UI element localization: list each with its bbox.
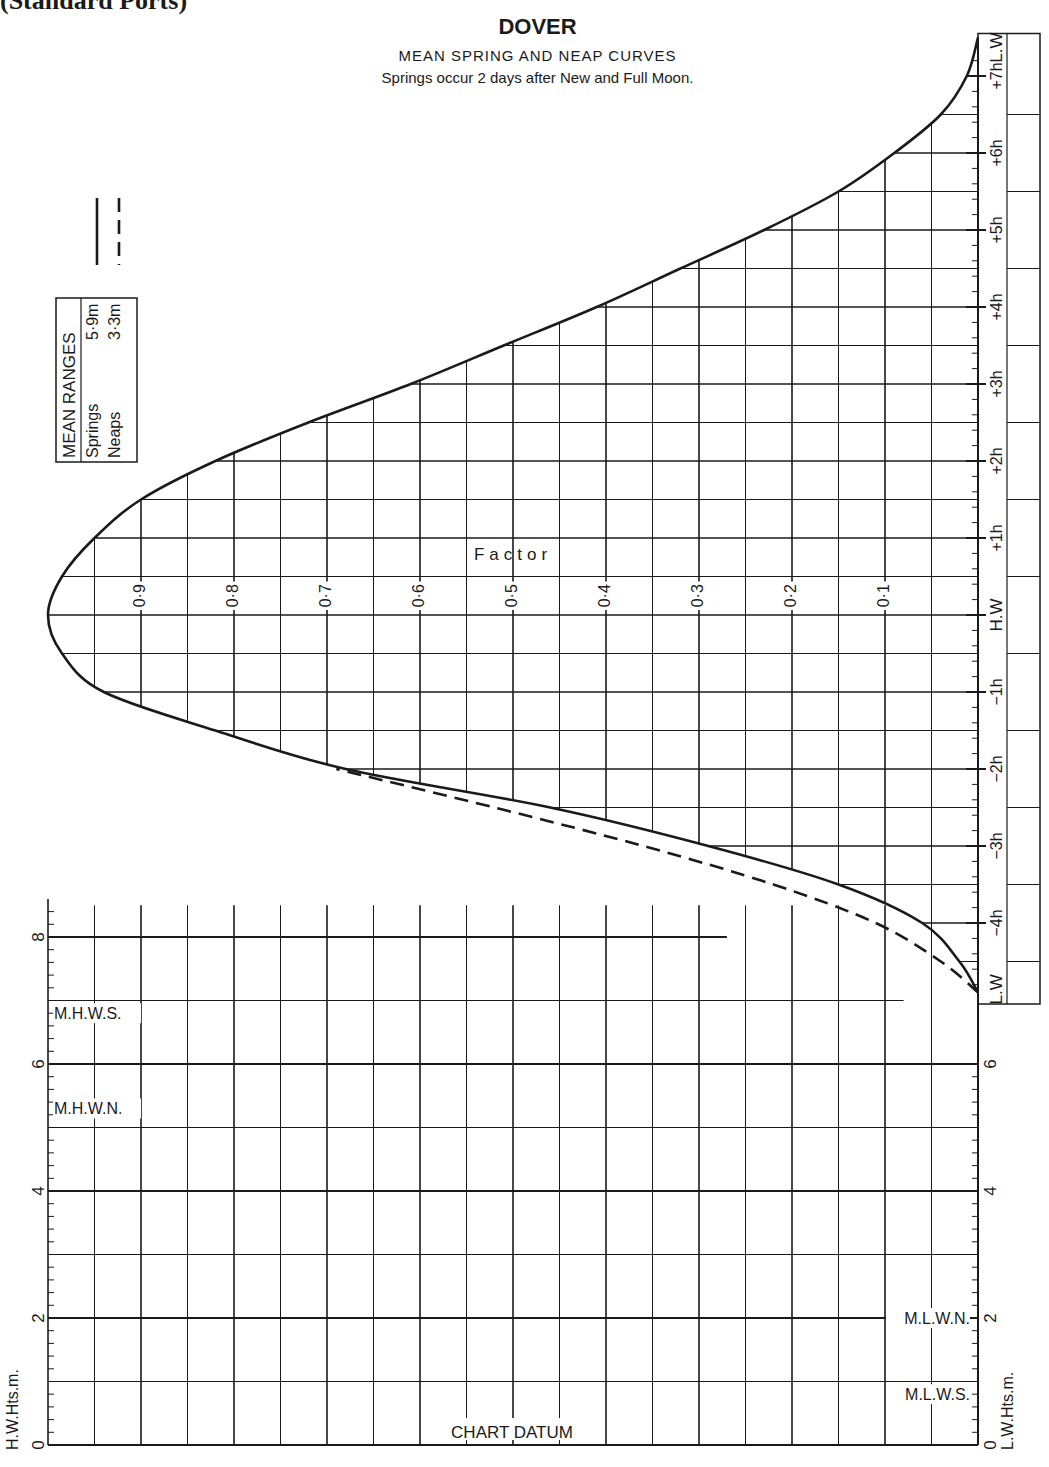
mean-ranges-neaps-label: Neaps <box>106 412 123 458</box>
right-height-tick-label: 2 <box>981 1313 1000 1322</box>
mean-ranges-springs-label: Springs <box>84 404 101 458</box>
left-axis-title: H.W.Hts.m. <box>4 1369 21 1450</box>
factor-tick-label: 0·7 <box>317 584 334 607</box>
factor-tick-label: 0·3 <box>689 584 706 607</box>
time-tick-label: +5h <box>988 216 1005 243</box>
time-tick-label: H.W <box>987 598 1006 631</box>
time-tick-label: −4h <box>988 909 1005 936</box>
factor-tick-label: 0·5 <box>503 584 520 607</box>
neaps-curve <box>336 769 978 992</box>
time-tick-label: +3h <box>988 370 1005 397</box>
right-axis-title: L.W.Hts.m. <box>999 1372 1016 1450</box>
right-height-tick-label: 6 <box>981 1059 1000 1068</box>
time-tick-label: L.W <box>987 32 1006 62</box>
mean-ranges-springs-value: 5·9m <box>84 304 101 340</box>
factor-grid <box>48 38 978 1001</box>
left-height-tick-label: 0 <box>29 1440 48 1449</box>
factor-tick-label: 0·9 <box>131 584 148 607</box>
left-height-tick-label: 8 <box>29 932 48 941</box>
right-height-marker: M.L.W.N. <box>904 1310 970 1327</box>
left-height-tick-label: 4 <box>29 1186 48 1195</box>
factor-tick-label: 0·6 <box>410 584 427 607</box>
mean-ranges-title: MEAN RANGES <box>60 332 79 458</box>
time-tick-label: +2h <box>988 447 1005 474</box>
right-height-tick-label: 0 <box>981 1440 1000 1449</box>
factor-tick-label: 0·8 <box>224 584 241 607</box>
left-height-marker: M.H.W.N. <box>54 1100 122 1117</box>
mean-ranges-neaps-value: 3·3m <box>106 304 123 340</box>
time-tick-label: −1h <box>988 678 1005 705</box>
time-tick-label: L.W <box>987 974 1006 1004</box>
time-tick-label: +6h <box>988 139 1005 166</box>
time-tick-label: +7h <box>988 62 1005 89</box>
left-height-tick-label: 2 <box>29 1313 48 1322</box>
left-height-tick-label: 6 <box>29 1059 48 1068</box>
factor-tick-label: 0·4 <box>596 584 613 607</box>
factor-axis-label: Factor <box>474 545 552 564</box>
left-height-marker: M.H.W.S. <box>54 1005 122 1022</box>
factor-tick-label: 0·2 <box>782 584 799 607</box>
time-tick-label: +1h <box>988 524 1005 551</box>
tidal-curve-chart: L.W−4h−3h−2h−1hH.W+1h+2h+3h+4h+5h+6h+7hL… <box>0 0 1049 1467</box>
chart-datum-label: CHART DATUM <box>451 1423 573 1442</box>
right-height-marker: M.L.W.S. <box>905 1386 970 1403</box>
time-tick-label: −3h <box>988 832 1005 859</box>
right-height-tick-label: 4 <box>981 1186 1000 1195</box>
time-tick-label: −2h <box>988 755 1005 782</box>
time-tick-label: +4h <box>988 293 1005 320</box>
factor-tick-label: 0·1 <box>875 584 892 607</box>
